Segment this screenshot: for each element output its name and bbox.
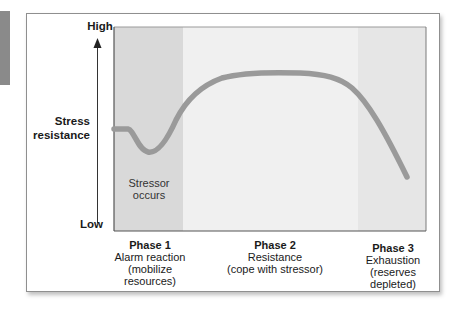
arrow-up-icon: [94, 38, 102, 48]
stressor-occurs-annotation: Stressor occurs: [118, 177, 180, 201]
y-axis-title-line1: Stress: [30, 114, 90, 128]
y-axis-high-label: High: [82, 19, 118, 33]
phase2-label: Phase 2 Resistance (cope with stressor): [220, 239, 330, 275]
y-axis-title: Stress resistance: [30, 114, 90, 142]
y-axis-low-label: Low: [80, 217, 112, 231]
phase1-title: Phase 1: [108, 239, 192, 251]
y-axis-title-line2: resistance: [30, 128, 90, 142]
phase2-band: [183, 27, 358, 231]
phase1-label: Phase 1 Alarm reaction (mobilize resourc…: [108, 239, 192, 287]
phase3-title: Phase 3: [358, 242, 428, 254]
phase2-title: Phase 2: [220, 239, 330, 251]
phase3-label: Phase 3 Exhaustion (reserves depleted): [358, 242, 428, 290]
phase3-band: [358, 27, 426, 231]
